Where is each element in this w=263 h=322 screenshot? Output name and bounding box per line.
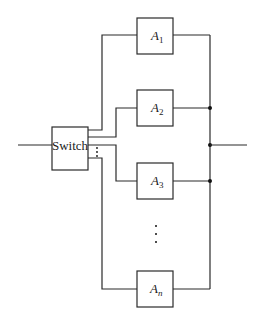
switch-block: Switch (52, 127, 89, 170)
wire-to-a2 (88, 108, 137, 137)
unit-name: A (150, 28, 159, 43)
switch-label: Switch (52, 138, 89, 153)
junction-dot (208, 179, 212, 183)
switch-ellipsis (96, 147, 98, 157)
unit-subscript: n (158, 288, 163, 298)
unit-name: A (150, 173, 159, 188)
unit-name: A (149, 281, 158, 296)
units-ellipsis (155, 225, 157, 243)
wire-to-a1 (88, 35, 137, 130)
unit-an: An (137, 271, 173, 307)
unit-a1: A1 (137, 18, 173, 54)
unit-subscript: 3 (159, 180, 164, 190)
unit-subscript: 2 (159, 107, 164, 117)
unit-subscript: 1 (159, 35, 164, 45)
redundancy-diagram: Switch A1 A2 A3 An (0, 0, 263, 322)
unit-a2: A2 (137, 90, 173, 126)
junction-dot (208, 106, 212, 110)
wire-to-an (88, 158, 137, 289)
unit-a3: A3 (137, 163, 173, 199)
wire-to-a3 (88, 145, 137, 181)
unit-name: A (150, 100, 159, 115)
